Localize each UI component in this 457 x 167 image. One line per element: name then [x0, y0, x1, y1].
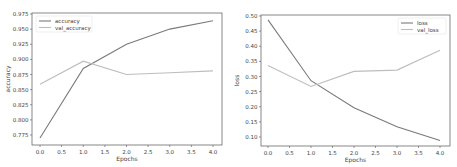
x-tick-label: 0.5 [285, 150, 294, 156]
y-tick-label: 0.825 [13, 102, 29, 108]
x-tick-label: 4.0 [436, 150, 445, 156]
figure: 0.7750.8000.8250.8500.8750.9000.9250.950… [0, 0, 457, 167]
loss-chart: 0.100.150.200.250.300.350.400.450.500.00… [233, 13, 450, 164]
x-tick-label: 3.5 [414, 150, 423, 156]
y-tick-label: 0.950 [13, 26, 29, 32]
legend-entry: val_accuracy [55, 25, 91, 32]
y-tick-label: 0.900 [13, 56, 29, 62]
accuracy-chart: 0.7750.8000.8250.8500.8750.9000.9250.950… [4, 11, 222, 163]
y-axis-label: accuracy [4, 65, 12, 93]
y-tick-label: 0.25 [245, 89, 258, 95]
y-tick-label: 0.50 [245, 13, 258, 19]
x-tick-label: 0.5 [57, 149, 66, 155]
x-tick-label: 2.5 [144, 149, 153, 155]
x-tick-label: 1.5 [101, 149, 110, 155]
x-tick-label: 0.0 [264, 150, 273, 156]
y-tick-label: 0.925 [13, 41, 29, 47]
y-axis-label: loss [233, 75, 240, 87]
x-tick-label: 3.0 [393, 150, 402, 156]
legend: lossval_loss [398, 18, 446, 34]
x-tick-label: 1.0 [307, 150, 316, 156]
y-tick-label: 0.850 [13, 87, 29, 93]
x-tick-label: 3.0 [165, 149, 174, 155]
x-tick-label: 0.0 [36, 149, 45, 155]
legend-entry: loss [417, 20, 428, 26]
y-tick-label: 0.35 [245, 58, 258, 64]
x-tick-label: 4.0 [209, 149, 218, 155]
y-tick-label: 0.40 [245, 43, 258, 49]
y-tick-label: 0.45 [245, 28, 258, 34]
y-tick-label: 0.10 [245, 134, 258, 140]
x-axis-label: Epochs [116, 155, 138, 163]
x-tick-label: 1.0 [79, 149, 88, 155]
legend: accuracyval_accuracy [36, 16, 92, 32]
y-tick-label: 0.20 [245, 104, 258, 110]
axes-frame [32, 13, 222, 145]
x-axis-label: Epochs [345, 156, 367, 164]
y-tick-label: 0.975 [13, 11, 29, 17]
x-tick-label: 1.5 [328, 150, 337, 156]
x-tick-label: 2.5 [371, 150, 380, 156]
y-tick-label: 0.800 [13, 117, 29, 123]
axes-frame [261, 15, 450, 146]
y-tick-label: 0.15 [245, 119, 258, 125]
y-tick-label: 0.775 [13, 132, 29, 138]
x-tick-label: 3.5 [187, 149, 196, 155]
y-tick-label: 0.30 [245, 74, 258, 80]
legend-entry: val_loss [417, 27, 439, 34]
y-tick-label: 0.875 [13, 72, 29, 78]
